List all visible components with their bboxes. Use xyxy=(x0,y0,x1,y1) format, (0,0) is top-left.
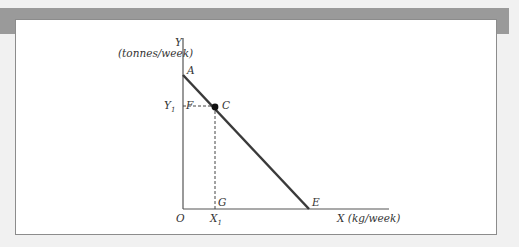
origin-label: O xyxy=(176,212,185,224)
label-c: C xyxy=(222,99,230,111)
y-axis-unit: (tonnes/week) xyxy=(118,47,193,59)
label-g: G xyxy=(218,196,226,208)
tick-x1: X1 xyxy=(209,212,222,227)
production-possibility-line xyxy=(183,75,309,209)
tick-y1: Y1 xyxy=(164,99,175,114)
label-f: F xyxy=(185,99,194,111)
x-axis-label: X (kg/week) xyxy=(336,212,400,224)
ppf-diagram: Y (tonnes/week) A F C G E O Y1 X1 X (kg/… xyxy=(0,0,519,247)
point-c-marker xyxy=(212,104,219,111)
label-e: E xyxy=(311,196,320,208)
label-a: A xyxy=(186,64,195,76)
